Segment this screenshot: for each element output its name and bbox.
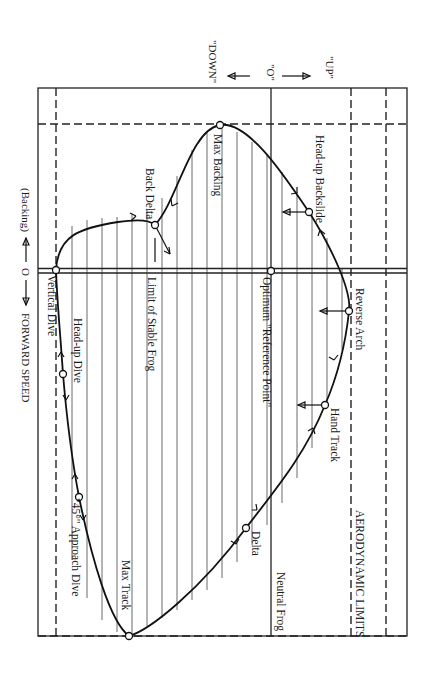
label-head-up-backslide: Head-up Backslide: [313, 135, 326, 223]
point-hand-track: [322, 402, 329, 409]
point-delta: [243, 525, 250, 532]
horizontal-speed-axis: (Backing) O FORWARD SPEED: [19, 188, 32, 403]
label-zero-horizontal: O: [20, 268, 32, 276]
label-approach-dive: "45°" Approach Dive: [69, 498, 82, 596]
label-backing: (Backing): [19, 188, 32, 232]
point-head-up-backslide: [306, 209, 313, 216]
label-limit-stable-frog: Limit of Stable Frog: [145, 277, 158, 371]
point-max-track: [126, 633, 133, 640]
label-down: "DOWN": [207, 40, 219, 83]
flight-envelope-diagram: Vertical Dive Head-up Dive "45°" Approac…: [0, 0, 428, 674]
label-max-backing: Max Backing: [211, 134, 224, 197]
vertical-speed-axis: "DOWN" "O" "UP": [207, 40, 336, 83]
envelope-curve: [56, 125, 349, 636]
point-back-delta: [152, 222, 159, 229]
label-hand-track: Hand Track: [329, 408, 341, 462]
label-up: "UP": [324, 56, 336, 79]
point-reverse-arch: [346, 308, 353, 315]
point-vertical-dive: [53, 267, 60, 274]
label-zero-vertical: "O": [265, 64, 277, 81]
label-optimum-reference: Optimum "Reference Point": [260, 277, 273, 407]
label-neutral-frog: Neutral Frog: [274, 572, 287, 631]
label-max-track: Max Track: [120, 560, 132, 610]
label-back-delta: Back Delta: [144, 168, 156, 219]
direction-arrows: [58, 187, 338, 544]
point-max-backing: [217, 122, 224, 129]
label-reverse-arch: Reverse Arch: [354, 288, 366, 351]
point-optimum-reference: [268, 268, 275, 275]
label-head-up-dive: Head-up Dive: [71, 318, 84, 383]
label-forward-speed: FORWARD SPEED: [20, 313, 32, 403]
label-vertical-dive: Vertical Dive: [46, 275, 58, 336]
label-delta: Delta: [250, 531, 262, 556]
point-head-up-dive: [60, 371, 67, 378]
label-aerodynamic-limits: AERODYNAMIC LIMITS: [354, 510, 366, 637]
